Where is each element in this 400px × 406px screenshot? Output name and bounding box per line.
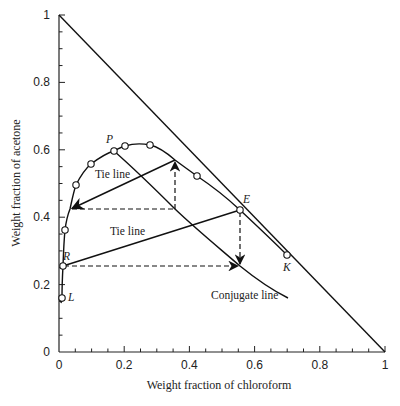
- marker-P: [111, 148, 117, 154]
- marker-R: [60, 263, 66, 269]
- x-tick-0: 0: [56, 358, 63, 372]
- x-tick-0.6: 0.6: [246, 358, 263, 372]
- label-R: R: [62, 250, 70, 262]
- x-tick-0.4: 0.4: [181, 358, 198, 372]
- x-axis-title: Weight fraction of chloroform: [147, 378, 292, 392]
- ternary-phase-diagram: 0 0.2 0.4 0.6 0.8 1 0 0.2 0.4 0.6 0.8 1 …: [0, 0, 400, 406]
- marker: [62, 227, 68, 233]
- marker: [194, 173, 200, 179]
- marker-L: [59, 295, 65, 301]
- y-tick-0.8: 0.8: [33, 75, 50, 89]
- x-tick-0.8: 0.8: [311, 358, 328, 372]
- marker: [147, 142, 153, 148]
- label-E: E: [242, 193, 250, 205]
- y-tick-0.6: 0.6: [33, 143, 50, 157]
- x-tick-0.2: 0.2: [116, 358, 133, 372]
- x-tick-1: 1: [382, 358, 389, 372]
- marker: [88, 161, 94, 167]
- label-K: K: [282, 261, 292, 273]
- marker: [73, 182, 79, 188]
- y-axis-title: Weight fraction of acetone: [9, 119, 23, 246]
- tie-line-label-upper: Tie line: [95, 168, 130, 180]
- y-tick-1: 1: [43, 8, 50, 22]
- label-L: L: [67, 291, 74, 303]
- y-tick-0.2: 0.2: [33, 278, 50, 292]
- y-tick-0.4: 0.4: [33, 210, 50, 224]
- y-tick-labels: 0 0.2 0.4 0.6 0.8 1: [33, 8, 50, 359]
- conjugate-line-label: Conjugate line: [211, 289, 278, 302]
- x-tick-labels: 0 0.2 0.4 0.6 0.8 1: [56, 358, 389, 372]
- marker-K: [284, 252, 290, 258]
- marker-E: [237, 207, 243, 213]
- hypotenuse-line: [59, 15, 385, 352]
- marker: [122, 143, 128, 149]
- tie-line-label-lower: Tie line: [110, 225, 145, 237]
- label-P: P: [105, 133, 113, 145]
- tie-line-lower: [63, 210, 240, 266]
- y-tick-0: 0: [43, 345, 50, 359]
